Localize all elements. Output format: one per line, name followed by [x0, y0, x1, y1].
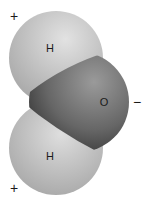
hydrogen-label-bottom: H — [46, 150, 54, 162]
hydrogen-label-top: H — [46, 42, 54, 54]
water-molecule-diagram: H O H + + − — [0, 0, 147, 221]
negative-charge-oxygen: − — [133, 94, 141, 110]
oxygen-label: O — [100, 96, 109, 108]
positive-charge-top: + — [10, 8, 18, 24]
positive-charge-bottom: + — [10, 180, 18, 196]
